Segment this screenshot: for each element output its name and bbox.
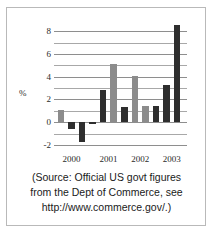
x-axis-tick-label: 2000 xyxy=(63,154,81,164)
bar xyxy=(174,25,181,122)
x-axis-tick-label: 2002 xyxy=(131,154,149,164)
x-axis-tick-label: 2003 xyxy=(163,154,181,164)
y-axis-label: % xyxy=(19,88,27,98)
y-axis-tick-label: 8 xyxy=(47,26,52,36)
bar xyxy=(100,90,107,122)
bar xyxy=(142,106,149,122)
bar xyxy=(79,122,86,141)
y-axis-tick-label: 6 xyxy=(47,49,52,59)
gridline xyxy=(54,77,187,78)
caption-line-3: http://www.commerce.gov/.) xyxy=(13,200,200,215)
bar xyxy=(68,122,75,129)
plot-area: 86420-2 xyxy=(54,22,187,145)
bar xyxy=(58,110,65,123)
gridline xyxy=(54,31,187,32)
bar xyxy=(110,64,117,122)
figure-caption: (Source: Official US govt figures from t… xyxy=(7,168,206,215)
caption-line-1: (Source: Official US govt figures xyxy=(13,170,200,185)
bar xyxy=(153,106,160,122)
gridline xyxy=(54,145,187,146)
y-axis-tick-label: 2 xyxy=(47,94,52,104)
bar xyxy=(163,85,170,123)
gridline xyxy=(54,54,187,55)
gridline xyxy=(54,65,187,66)
bar xyxy=(121,107,128,122)
x-axis-ticks: 2000200120022003 xyxy=(54,154,187,168)
gridline xyxy=(54,134,187,135)
bar xyxy=(89,122,96,124)
y-axis-tick-label: 4 xyxy=(47,72,52,82)
bar-chart: % 86420-2 2000200120022003 xyxy=(7,8,206,166)
y-axis-tick-label: 0 xyxy=(47,117,52,127)
caption-line-2: from the Dept of Commerce, see xyxy=(13,185,200,200)
bar xyxy=(132,76,139,123)
gridline xyxy=(54,43,187,44)
y-axis-tick-label: -2 xyxy=(44,140,52,150)
figure-panel: % 86420-2 2000200120022003 (Source: Offi… xyxy=(6,7,206,226)
x-axis-tick-label: 2001 xyxy=(99,154,117,164)
